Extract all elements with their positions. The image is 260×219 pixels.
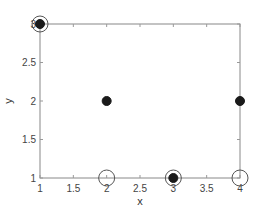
y-tick-label: 1.5 [22, 134, 36, 145]
filled-marker [236, 97, 245, 106]
x-tick-label: 2 [104, 183, 110, 194]
filled-marker [102, 97, 111, 106]
axes-box [40, 24, 240, 178]
filled-marker [36, 20, 45, 29]
x-tick-label: 4 [237, 183, 243, 194]
y-tick-label: 1 [30, 173, 36, 184]
data-markers [32, 16, 248, 186]
x-tick-label: 3.5 [200, 183, 214, 194]
x-tick-label: 3 [171, 183, 177, 194]
plot-area [40, 24, 240, 178]
x-axis-label: x [137, 195, 143, 207]
x-tick-label: 1.5 [66, 183, 80, 194]
y-axis-ticks: 11.522.53 [22, 19, 240, 184]
filled-marker [169, 174, 178, 183]
y-axis-label: y [2, 98, 14, 104]
y-tick-label: 2 [30, 96, 36, 107]
x-tick-label: 1 [37, 183, 43, 194]
x-tick-label: 2.5 [133, 183, 147, 194]
scatter-chart: 11.522.533.54 11.522.53 x y [0, 0, 260, 219]
y-tick-label: 2.5 [22, 57, 36, 68]
x-axis-ticks: 11.522.533.54 [37, 24, 243, 194]
